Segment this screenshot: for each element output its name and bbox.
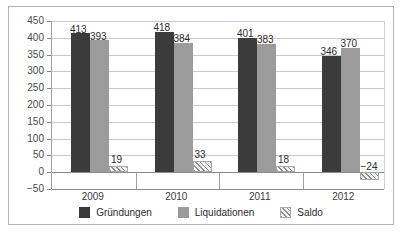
bar-value-gruendungen-2012: 346 bbox=[321, 47, 338, 57]
bar-gruendungen-2010[interactable] bbox=[155, 32, 174, 172]
bar-liquidationen-2012[interactable] bbox=[341, 48, 360, 172]
ytick-mark-100 bbox=[47, 139, 51, 140]
ytick-label-400: 400 bbox=[27, 33, 44, 43]
bar-group-2010: 418 384 33 bbox=[136, 21, 220, 189]
bar-saldo-2009[interactable] bbox=[109, 166, 128, 172]
ytick-label-150: 150 bbox=[27, 117, 44, 127]
category-axis: 2009 2010 2011 2012 bbox=[51, 189, 385, 209]
ytick-label-0: 0 bbox=[38, 167, 44, 177]
ytick-label-350: 350 bbox=[27, 50, 44, 60]
legend-swatch-icon-saldo bbox=[280, 207, 291, 218]
plot-area: 450 400 350 300 250 200 150 100 50 0 −50 bbox=[51, 21, 385, 189]
bar-saldo-2011[interactable] bbox=[276, 166, 295, 172]
bar-liquidationen-2009[interactable] bbox=[90, 40, 109, 172]
bar-value-saldo-2010: 33 bbox=[195, 150, 206, 160]
legend-item-gruendungen[interactable]: Gründungen bbox=[79, 207, 152, 218]
bar-gruendungen-2012[interactable] bbox=[322, 56, 341, 172]
ytick-label-200: 200 bbox=[27, 100, 44, 110]
ytick-label-minus50: −50 bbox=[27, 184, 44, 194]
bar-value-liquidationen-2009: 393 bbox=[90, 32, 107, 42]
bar-liquidationen-2010[interactable] bbox=[174, 43, 193, 172]
category-label-2011: 2011 bbox=[249, 192, 271, 202]
ytick-mark-400 bbox=[47, 38, 51, 39]
legend-item-liquidationen[interactable]: Liquidationen bbox=[178, 207, 255, 218]
ytick-mark-300 bbox=[47, 71, 51, 72]
bar-value-gruendungen-2009: 413 bbox=[70, 25, 87, 35]
legend-label-gruendungen: Gründungen bbox=[96, 208, 152, 218]
category-label-2010: 2010 bbox=[165, 192, 187, 202]
bar-value-saldo-2009: 19 bbox=[111, 155, 122, 165]
bar-gruendungen-2011[interactable] bbox=[238, 38, 257, 173]
ytick-mark-350 bbox=[47, 55, 51, 56]
ytick-mark-0 bbox=[47, 172, 51, 173]
bar-group-2012: 346 370 −24 bbox=[303, 21, 387, 189]
ytick-label-300: 300 bbox=[27, 66, 44, 76]
bar-value-liquidationen-2010: 384 bbox=[174, 34, 191, 44]
ytick-label-250: 250 bbox=[27, 83, 44, 93]
bar-value-liquidationen-2011: 383 bbox=[257, 35, 274, 45]
legend-item-saldo[interactable]: Saldo bbox=[280, 207, 323, 218]
bar-saldo-2012[interactable] bbox=[360, 172, 379, 180]
bar-value-saldo-2012: −24 bbox=[361, 162, 378, 172]
bar-gruendungen-2009[interactable] bbox=[71, 33, 90, 172]
ytick-label-450: 450 bbox=[27, 16, 44, 26]
category-label-2012: 2012 bbox=[332, 192, 354, 202]
ytick-label-100: 100 bbox=[27, 134, 44, 144]
bar-group-2011: 401 383 18 bbox=[219, 21, 303, 189]
ytick-mark-150 bbox=[47, 122, 51, 123]
chart-legend: Gründungen Liquidationen Saldo bbox=[9, 207, 393, 218]
ytick-label-50: 50 bbox=[33, 150, 44, 160]
bar-group-2009: 413 393 19 bbox=[52, 21, 136, 189]
legend-label-liquidationen: Liquidationen bbox=[195, 208, 255, 218]
bar-value-saldo-2011: 18 bbox=[278, 155, 289, 165]
ytick-mark-450 bbox=[47, 21, 51, 22]
bar-value-liquidationen-2012: 370 bbox=[341, 39, 358, 49]
ytick-mark-250 bbox=[47, 88, 51, 89]
legend-label-saldo: Saldo bbox=[297, 208, 323, 218]
bar-liquidationen-2011[interactable] bbox=[257, 44, 276, 173]
bar-value-gruendungen-2010: 418 bbox=[154, 23, 171, 33]
legend-swatch-icon-liquidationen bbox=[178, 207, 189, 218]
ytick-mark-200 bbox=[47, 105, 51, 106]
chart-frame: 450 400 350 300 250 200 150 100 50 0 −50 bbox=[8, 6, 394, 225]
bar-value-gruendungen-2011: 401 bbox=[237, 29, 254, 39]
legend-swatch-icon-gruendungen bbox=[79, 207, 90, 218]
bar-saldo-2010[interactable] bbox=[193, 161, 212, 172]
ytick-mark-50 bbox=[47, 155, 51, 156]
category-label-2009: 2009 bbox=[82, 192, 104, 202]
